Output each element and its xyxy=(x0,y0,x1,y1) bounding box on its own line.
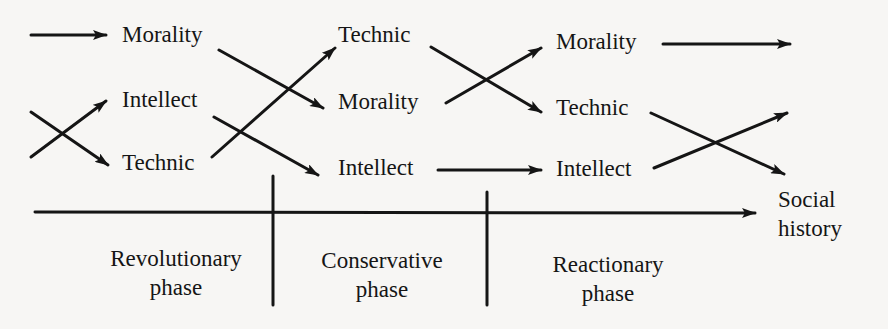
phase-label-line1: Revolutionary xyxy=(88,244,264,273)
col1-label-technic: Technic xyxy=(122,150,194,176)
phase-label-line1: Reactionary xyxy=(528,250,688,279)
incoming-arrow-technic xyxy=(31,112,108,165)
col2-label-technic: Technic xyxy=(338,22,410,48)
col2-label-intellect: Intellect xyxy=(338,155,413,181)
phase-label-conservative: Conservative phase xyxy=(302,246,462,304)
outgoing-arrow-intellect xyxy=(654,113,787,168)
phase-label-line2: phase xyxy=(302,275,462,304)
arrow-intellect-to-intellect xyxy=(214,117,318,175)
col2-label-morality: Morality xyxy=(338,89,419,115)
col1-label-intellect: Intellect xyxy=(122,87,197,113)
phase-label-line1: Conservative xyxy=(302,246,462,275)
col3-label-technic: Technic xyxy=(556,95,628,121)
phase-label-reactionary: Reactionary phase xyxy=(528,250,688,308)
phase-label-revolutionary: Revolutionary phase xyxy=(88,244,264,302)
col3-label-intellect: Intellect xyxy=(556,156,631,182)
axis-label-line2: history xyxy=(778,214,842,243)
social-history-axis xyxy=(35,212,755,213)
axis-label-social-history: Social history xyxy=(778,185,842,243)
col1-label-morality: Morality xyxy=(122,22,203,48)
arrow-morality-to-morality xyxy=(219,50,323,108)
arrow-technic-to-technic xyxy=(212,48,335,157)
axis-label-line1: Social xyxy=(778,185,842,214)
col3-label-morality: Morality xyxy=(556,29,637,55)
arrow-morality-to-morality-2 xyxy=(446,48,541,103)
phase-label-line2: phase xyxy=(528,279,688,308)
incoming-arrow-intellect xyxy=(31,101,106,157)
phase-label-line2: phase xyxy=(88,273,264,302)
phase-diagram: Morality Intellect Technic Technic Moral… xyxy=(0,0,888,329)
